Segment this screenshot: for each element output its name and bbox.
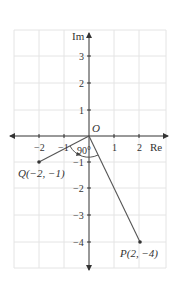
x-tick-label: −2 xyxy=(34,142,45,153)
point-P xyxy=(138,240,142,244)
x-tick-label: −1 xyxy=(58,142,69,153)
y-tick-label: 3 xyxy=(79,51,84,62)
x-tick-label: 2 xyxy=(137,142,142,153)
point-Q-label: Q(−2, −1) xyxy=(18,167,65,180)
y-tick-label: −2 xyxy=(73,183,84,194)
y-tick-label: 2 xyxy=(79,78,84,89)
origin-label: O xyxy=(92,122,100,134)
angle-label: 90° xyxy=(77,145,91,156)
x-tick-label: 1 xyxy=(112,142,117,153)
y-tick-label: −4 xyxy=(73,237,84,248)
y-tick-label: −3 xyxy=(73,210,84,221)
point-Q xyxy=(37,160,41,164)
complex-plane-diagram: Im Re O −2 −1 1 2 3 2 1 −1 −2 −3 −4 90° … xyxy=(0,0,178,287)
y-tick-label: 1 xyxy=(79,105,84,116)
y-axis-label: Im xyxy=(72,30,85,42)
point-P-label: P(2, −4) xyxy=(119,247,158,260)
x-axis-label: Re xyxy=(150,141,162,153)
y-tick-label: −1 xyxy=(73,157,84,168)
